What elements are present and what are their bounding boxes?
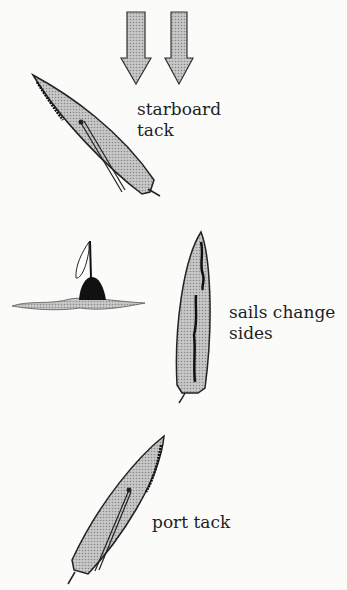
label-line: starboard bbox=[137, 99, 221, 120]
tacking-diagram bbox=[0, 0, 347, 590]
label-line: tack bbox=[137, 120, 221, 141]
label-line: sails change bbox=[229, 302, 335, 323]
starboard-tack-label: starboard tack bbox=[137, 99, 221, 141]
buoy-icon bbox=[12, 241, 145, 310]
wind-arrow-icon bbox=[121, 12, 151, 84]
boat-head-to-wind-icon bbox=[176, 232, 210, 403]
port-tack-label: port tack bbox=[152, 512, 230, 533]
label-line: port tack bbox=[152, 512, 230, 533]
sails-change-sides-label: sails change sides bbox=[229, 302, 335, 344]
label-line: sides bbox=[229, 323, 335, 344]
boat-port-tack-icon bbox=[68, 436, 164, 584]
wind-arrow-icon bbox=[165, 12, 193, 84]
